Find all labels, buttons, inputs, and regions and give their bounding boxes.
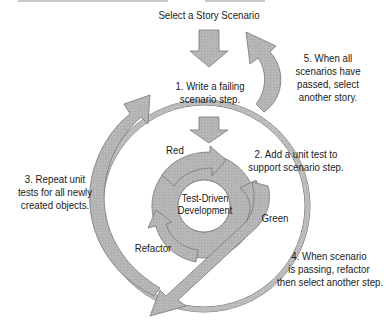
step-3-label: 3. Repeat unit tests for all newly creat…	[11, 173, 99, 212]
step-2-label: 2. Add a unit test to support scenario s…	[234, 148, 357, 174]
cropped-header-text	[18, 0, 265, 2]
step-1-label: 1. Write a failing scenario step.	[157, 80, 263, 106]
step-5-label: 5. When all scenarios have passed, selec…	[284, 52, 372, 104]
cycle-label-green: Green	[257, 212, 292, 225]
cycle-label-refactor: Refactor	[131, 242, 175, 255]
down-arrow-icon	[190, 117, 228, 143]
down-arrow-icon	[190, 30, 228, 67]
cycle-label-red: Red	[162, 144, 188, 157]
step-4-label: 4. When scenario is passing, refactor th…	[277, 250, 381, 289]
diagram-title: Select a Story Scenario	[152, 9, 266, 22]
curved-arrow-icon	[90, 95, 160, 296]
center-label: Test-Driven Development	[172, 192, 237, 216]
